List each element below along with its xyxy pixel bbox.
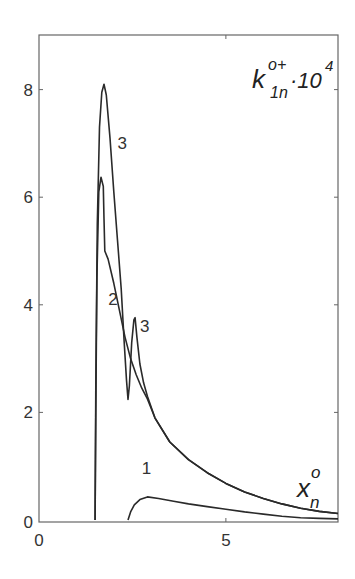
y-tick-label: 4 xyxy=(24,296,33,315)
curve-labels: 3231 xyxy=(108,134,151,478)
x-tick-label: 0 xyxy=(34,531,43,550)
curve-label-2: 2 xyxy=(108,290,117,309)
curve-label-3: 3 xyxy=(117,134,126,153)
y-tick-label: 8 xyxy=(24,81,33,100)
x-axis-title: x o n xyxy=(295,463,320,512)
x-tick-label: 5 xyxy=(221,531,230,550)
title-sup: o+ xyxy=(268,56,286,73)
axis-ticks: 0246805 xyxy=(24,35,338,550)
chart: 0246805 3231 k o+ 1n ·10 4 x o n xyxy=(0,0,355,579)
data-curves xyxy=(95,84,338,520)
title-suffix: ·10 xyxy=(290,68,323,93)
xlabel-sup: o xyxy=(311,463,320,482)
curve-3 xyxy=(95,84,338,520)
curve-label-3: 3 xyxy=(140,317,149,336)
y-tick-label: 2 xyxy=(24,403,33,422)
y-tick-label: 6 xyxy=(24,188,33,207)
title-suffix-sup: 4 xyxy=(325,57,333,74)
plot-frame xyxy=(39,35,338,522)
y-tick-label: 0 xyxy=(24,513,33,532)
y-axis-title: k o+ 1n ·10 4 xyxy=(252,56,333,101)
xlabel-sub: n xyxy=(310,493,319,512)
curve-label-1: 1 xyxy=(142,459,151,478)
title-base: k xyxy=(252,64,267,94)
title-sub: 1n xyxy=(270,84,288,101)
xlabel-base: x xyxy=(295,473,311,503)
